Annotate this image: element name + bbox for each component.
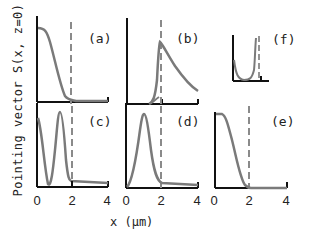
- panel-label-b: (b): [176, 31, 199, 46]
- xtick-e-0: 0: [207, 193, 221, 208]
- xtick-e-4: 4: [279, 193, 293, 208]
- panel-label-d: (d): [176, 114, 199, 129]
- xtick-c-4: 4: [100, 193, 114, 208]
- xtick-d-0: 0: [119, 193, 133, 208]
- panel-label-e: (e): [271, 114, 294, 129]
- panel-label-f: (f): [272, 32, 295, 47]
- xtick-d-2: 2: [154, 193, 168, 208]
- xtick-d-4: 4: [190, 193, 204, 208]
- panel-a: [37, 16, 108, 104]
- panel-f: [233, 35, 269, 81]
- xtick-e-2: 2: [242, 193, 256, 208]
- xtick-c-0: 0: [30, 193, 44, 208]
- x-axis-label: x (μm): [110, 215, 153, 229]
- panel-label-a: (a): [88, 31, 111, 46]
- xtick-c-2: 2: [65, 193, 79, 208]
- panel-label-c: (c): [88, 114, 111, 129]
- panel-d: [126, 97, 198, 188]
